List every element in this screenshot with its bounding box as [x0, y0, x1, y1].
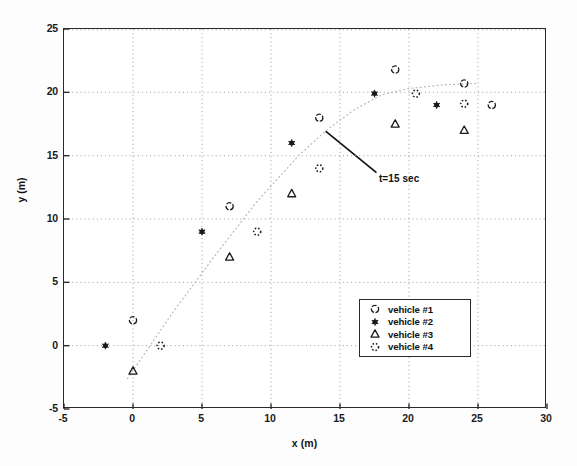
data-point-2-5	[433, 101, 439, 108]
legend-entry-3: vehicle #3	[364, 328, 463, 341]
legend-label: vehicle #3	[386, 329, 433, 340]
legend-label: vehicle #1	[386, 304, 433, 315]
y-axis-title: y (m)	[15, 160, 27, 220]
x-tick-label: -5	[59, 412, 68, 424]
x-tick-label: 15	[333, 412, 344, 424]
data-point-1-3	[316, 114, 323, 121]
data-point-1-4	[392, 66, 399, 73]
annotation-label-t15: t=15 sec	[379, 173, 420, 184]
star-filled-icon	[364, 316, 386, 329]
data-point-4-4	[412, 90, 419, 97]
y-axis-tick-labels: -50510152025	[36, 28, 58, 408]
data-point-4-3	[316, 165, 323, 172]
data-point-3-5	[460, 126, 468, 133]
data-point-2-3	[288, 139, 294, 146]
data-point-1-6	[488, 101, 495, 108]
legend-label: vehicle #2	[386, 316, 433, 327]
x-tick-label: 10	[264, 412, 275, 424]
y-tick-label: 15	[47, 149, 58, 161]
figure-canvas: -50510152025 t=15 sec vehicle #1vehicle …	[0, 0, 577, 466]
y-tick-label: 0	[52, 339, 58, 351]
legend-entry-1: vehicle #1	[364, 303, 463, 316]
y-tick-label: -5	[49, 402, 58, 414]
x-axis-tick-labels: -5051015202530	[63, 412, 546, 428]
circle-dotted-icon	[364, 341, 386, 354]
data-point-1-2	[226, 203, 233, 210]
y-tick-label: 10	[47, 212, 58, 224]
x-tick-label: 20	[402, 412, 413, 424]
data-point-2-4	[371, 90, 377, 97]
x-tick-label: 25	[471, 412, 482, 424]
x-axis-title: x (m)	[63, 437, 546, 449]
scatter-markers	[64, 29, 547, 409]
data-point-3-1	[129, 367, 137, 374]
plot-area: t=15 sec vehicle #1vehicle #2vehicle #3v…	[63, 28, 546, 408]
y-tick-label: 5	[52, 275, 58, 287]
data-point-4-1	[157, 342, 164, 349]
triangle-open-icon	[364, 328, 386, 341]
data-point-2-1	[102, 342, 108, 349]
data-point-4-5	[461, 100, 468, 107]
legend-label: vehicle #4	[386, 341, 433, 352]
legend-box: vehicle #1vehicle #2vehicle #3vehicle #4	[359, 299, 471, 357]
data-point-1-1	[129, 317, 136, 324]
data-markers-layer	[64, 29, 545, 407]
data-point-2-2	[199, 228, 205, 235]
legend-entry-4: vehicle #4	[364, 341, 463, 354]
data-point-3-3	[288, 189, 296, 196]
data-point-3-2	[226, 253, 234, 260]
x-tick-label: 0	[129, 412, 135, 424]
data-point-4-2	[254, 228, 261, 235]
y-tick-label: 25	[47, 22, 58, 34]
data-point-1-5	[461, 80, 468, 87]
x-tick-label: 5	[198, 412, 204, 424]
data-point-3-4	[391, 120, 399, 127]
y-tick-label: 20	[47, 85, 58, 97]
legend-entry-2: vehicle #2	[364, 316, 463, 329]
circle-open-icon	[364, 303, 386, 316]
x-tick-label: 30	[540, 412, 551, 424]
